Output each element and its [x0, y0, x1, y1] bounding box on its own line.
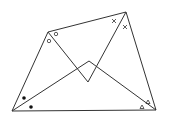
outer-quadrilateral [12, 12, 156, 111]
triangle-mark-icon [140, 105, 144, 109]
circle-mark-icon [54, 32, 57, 35]
geometry-diagram [0, 0, 169, 124]
edge-fd [89, 61, 156, 110]
edge-da [12, 110, 156, 111]
dot-mark-icon [22, 96, 26, 100]
inner-inverted-v-shape [12, 61, 156, 111]
edge-ec [88, 12, 126, 82]
cross-mark-icon [123, 25, 127, 29]
dot-mark-icon [29, 105, 33, 109]
cross-mark-icon [112, 19, 116, 23]
circle-mark-icon [47, 39, 50, 42]
edge-bc [48, 12, 126, 32]
edge-cd [126, 12, 156, 110]
triangle-mark-icon [146, 100, 150, 104]
